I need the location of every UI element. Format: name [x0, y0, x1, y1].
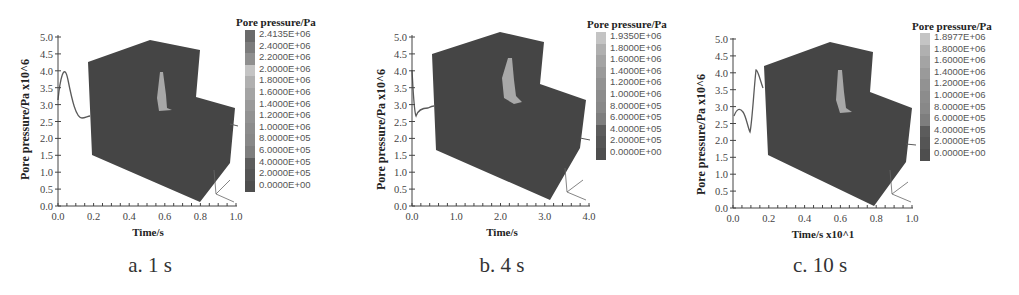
- colorbar-label: 2.0000E+05: [610, 134, 662, 146]
- colorbar-segment: [920, 56, 930, 68]
- colorbar-label: 6.0000E+05: [610, 111, 662, 123]
- colorbar-labels: 1.9350E+061.8000E+061.6000E+061.4000E+06…: [610, 30, 662, 158]
- colorbar-segment: [596, 148, 606, 160]
- colorbar-label: 1.4000E+06: [259, 98, 311, 110]
- y-tick-label: 2.5: [40, 117, 53, 128]
- x-tick-label: 0.2: [762, 213, 775, 224]
- colorbar: [596, 32, 606, 160]
- y-tick-label: 1.5: [394, 150, 407, 161]
- colorbar-label: 1.0000E+06: [610, 88, 662, 100]
- colorbar-segment: [920, 114, 930, 126]
- y-axis-label: Pore pressure/Pa x10^6: [694, 74, 709, 195]
- y-tick-label: 2.0: [715, 135, 728, 146]
- colorbar-segment: [596, 78, 606, 90]
- colorbar-segment: [245, 169, 255, 181]
- colorbar-segment: [596, 113, 606, 125]
- colorbar-label: 8.0000E+05: [610, 100, 662, 112]
- y-tick-label: 4.0: [40, 66, 53, 77]
- colorbar-label: 1.0000E+06: [934, 89, 986, 101]
- colorbar-label: 1.0000E+06: [259, 121, 311, 133]
- colorbar-segment: [245, 158, 255, 170]
- colorbar-segment: [920, 137, 930, 149]
- x-axis-label: Time/s: [132, 226, 164, 238]
- panel-b: 0.00.51.01.52.02.53.03.54.04.55.00.01.02…: [340, 0, 680, 295]
- colorbar-label: 2.4000E+06: [259, 40, 311, 52]
- colorbar-segment: [245, 111, 255, 123]
- colorbar-label: 1.2000E+06: [259, 109, 311, 121]
- x-tick-label: 0.8: [194, 211, 207, 222]
- colorbar-segment: [245, 65, 255, 77]
- y-tick-label: 1.5: [40, 150, 53, 161]
- x-tick-label: 1.0: [905, 213, 918, 224]
- colorbar-segment: [596, 136, 606, 148]
- colorbar-title: Pore pressure/Pa: [587, 18, 667, 30]
- colorbar-label: 1.6000E+06: [259, 86, 311, 98]
- colorbar-segment: [596, 125, 606, 137]
- x-tick-label: 3.0: [538, 211, 551, 222]
- x-tick-label: 0.0: [726, 213, 739, 224]
- colorbar-segment: [596, 44, 606, 56]
- colorbar-segment: [920, 103, 930, 115]
- colorbar-label: 2.0000E+05: [259, 167, 311, 179]
- colorbar: [920, 33, 930, 161]
- caption-a: a. 1 s: [128, 253, 172, 278]
- colorbar-segment: [245, 30, 255, 42]
- colorbar-segment: [245, 42, 255, 54]
- y-axis-label: Pore pressure/Pa x10^6: [374, 69, 389, 190]
- colorbar-label: 1.2000E+06: [934, 77, 986, 89]
- colorbar-label: 1.4000E+06: [934, 66, 986, 78]
- y-tick-label: 3.0: [40, 100, 53, 111]
- y-tick-label: 2.0: [394, 133, 407, 144]
- x-tick-label: 0.4: [798, 213, 812, 224]
- colorbar-label: 0.0000E+00: [934, 147, 986, 159]
- colorbar-label: 4.0000E+05: [610, 123, 662, 135]
- colorbar-label: 1.8000E+06: [610, 42, 662, 54]
- colorbar-segment: [245, 181, 255, 193]
- panel-a: 0.00.51.01.52.02.53.03.54.04.55.00.00.20…: [0, 0, 340, 295]
- colorbar-segment: [596, 102, 606, 114]
- x-tick-label: 1.0: [450, 211, 463, 222]
- pressure-curve: [412, 70, 434, 116]
- pressure-curve: [58, 72, 90, 118]
- y-tick-label: 2.5: [715, 119, 728, 130]
- colorbar-label: 8.0000E+05: [259, 132, 311, 144]
- y-tick-label: 2.0: [40, 133, 53, 144]
- colorbar-segment: [920, 91, 930, 103]
- colorbar-segment: [920, 33, 930, 45]
- colorbar-segment: [596, 32, 606, 44]
- colorbar-segment: [596, 90, 606, 102]
- y-tick-label: 0.5: [394, 184, 407, 195]
- colorbar-labels: 1.8977E+061.8000E+061.6000E+061.4000E+06…: [934, 31, 986, 159]
- x-tick-label: 0.2: [87, 211, 100, 222]
- model-cube: [764, 42, 912, 206]
- y-tick-label: 3.5: [715, 85, 728, 96]
- colorbar-title: Pore pressure/Pa: [236, 16, 316, 28]
- axis-triad-icon: [565, 168, 586, 200]
- colorbar-label: 8.0000E+05: [934, 101, 986, 113]
- y-tick-label: 2.5: [394, 117, 407, 128]
- y-tick-label: 1.0: [40, 167, 53, 178]
- caption-c: c. 10 s: [793, 253, 847, 278]
- x-tick-label: 0.8: [870, 213, 883, 224]
- y-tick-label: 5.0: [40, 32, 53, 43]
- colorbar-label: 1.2000E+06: [610, 76, 662, 88]
- colorbar: [245, 30, 255, 192]
- colorbar-segment: [245, 88, 255, 100]
- colorbar-segment: [920, 68, 930, 80]
- colorbar-segment: [596, 67, 606, 79]
- pressure-curve: [734, 70, 763, 132]
- colorbar-label: 4.0000E+05: [934, 124, 986, 136]
- colorbar-label: 2.2000E+06: [259, 51, 311, 63]
- x-axis-label: Time/s x10^1: [792, 228, 855, 240]
- x-axis-label: Time/s: [486, 226, 518, 238]
- y-tick-label: 4.0: [394, 66, 407, 77]
- x-tick-label: 4.0: [582, 211, 595, 222]
- colorbar-label: 1.4000E+06: [610, 65, 662, 77]
- colorbar-label: 2.0000E+06: [259, 63, 311, 75]
- colorbar-segment: [245, 134, 255, 146]
- x-tick-label: 0.0: [405, 211, 418, 222]
- caption-b: b. 4 s: [480, 253, 525, 278]
- x-tick-label: 1.0: [229, 211, 242, 222]
- colorbar-segment: [920, 45, 930, 57]
- colorbar-label: 1.6000E+06: [934, 54, 986, 66]
